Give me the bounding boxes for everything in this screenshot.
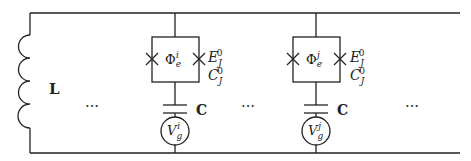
- cap-label-i: C: [196, 102, 207, 118]
- cj-label-j: CJ0: [350, 66, 366, 86]
- flux-label-i: Φei: [165, 50, 181, 69]
- ellipsis-left: …: [85, 94, 99, 110]
- ellipsis-middle: …: [241, 94, 255, 110]
- capacitor-icon: [304, 105, 328, 113]
- flux-label-j: Φej: [306, 50, 322, 69]
- cap-label-j: C: [337, 102, 348, 118]
- ej-label-i: EJ0: [207, 48, 223, 68]
- inductor: [18, 13, 30, 153]
- cj-label-i: CJ0: [208, 66, 224, 86]
- source-label-j: Vgj: [308, 121, 323, 141]
- circuit-diagram: L … … … Φei EJ0 CJ0 C Vgi: [0, 0, 471, 161]
- source-label-i: Vgi: [167, 121, 182, 141]
- inductor-label: L: [49, 80, 60, 98]
- ellipsis-right: …: [405, 94, 419, 110]
- ej-label-j: EJ0: [349, 48, 365, 68]
- capacitor-icon: [163, 105, 187, 113]
